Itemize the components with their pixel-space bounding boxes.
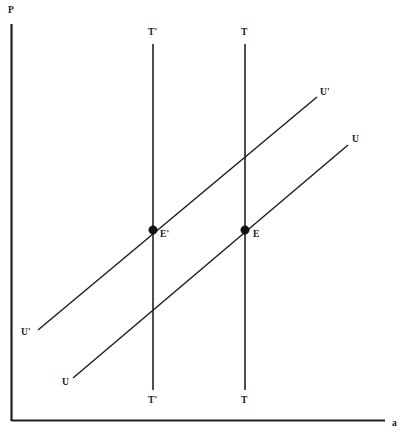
label-equilibrium-e: E [253,230,260,240]
label-t-bottom: T [241,396,248,406]
equilibrium-dot-e [241,226,249,234]
label-u-prime-upper-right: U' [320,88,330,98]
y-axis-label: P [8,6,14,16]
label-equilibrium-e-prime: E' [160,230,169,240]
economics-diagram: P a T' T T' T U' U U' U E' E [0,0,404,440]
curve-u-prime [38,97,317,330]
curve-u [73,145,348,378]
label-u-lower-left: U [62,378,69,388]
label-u-upper-right: U [352,135,359,145]
label-t-prime-bottom: T' [148,396,157,406]
diagram-canvas [0,0,404,440]
label-t-prime-top: T' [148,28,157,38]
label-u-prime-lower-left: U' [21,328,31,338]
label-t-top: T [241,28,248,38]
equilibrium-dot-e-prime [149,226,157,234]
x-axis-label: a [392,419,397,429]
